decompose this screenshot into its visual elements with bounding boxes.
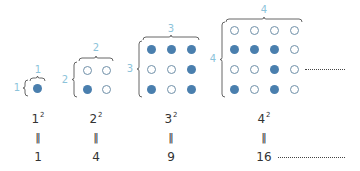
open-dot: [167, 85, 176, 94]
filled-dot: [167, 45, 176, 54]
filled-dot: [33, 84, 42, 93]
top-count-label: 3: [168, 24, 174, 34]
filled-dot: [250, 45, 259, 54]
square-expression: 12: [31, 112, 44, 125]
open-dot: [102, 66, 111, 75]
equals-sign: ‖: [168, 132, 174, 143]
open-dot: [230, 26, 239, 35]
equals-sign: ‖: [261, 132, 267, 143]
filled-dot: [187, 45, 196, 54]
filled-dot: [147, 85, 156, 94]
open-dot: [167, 65, 176, 74]
side-count-label: 2: [62, 75, 68, 85]
filled-dot: [270, 45, 279, 54]
filled-dot: [187, 85, 196, 94]
square-expression: 42: [257, 112, 270, 125]
side-count-label: 4: [210, 54, 216, 64]
open-dot: [290, 65, 299, 74]
filled-dot: [147, 45, 156, 54]
square-value: 1: [34, 151, 42, 163]
square-expression: 22: [89, 112, 102, 125]
filled-dot: [230, 45, 239, 54]
square-value: 4: [92, 151, 100, 163]
open-dot: [250, 65, 259, 74]
side-count-label: 3: [127, 64, 133, 74]
filled-dot: [270, 65, 279, 74]
top-count-label: 1: [35, 65, 41, 75]
filled-dot: [187, 65, 196, 74]
square-value: 16: [256, 151, 271, 163]
open-dot: [290, 85, 299, 94]
ellipsis-sequence: [278, 157, 345, 158]
filled-dot: [83, 85, 92, 94]
brace-layer: [0, 0, 360, 171]
open-dot: [290, 45, 299, 54]
side-count-label: 1: [14, 83, 20, 93]
open-dot: [230, 65, 239, 74]
square-value: 9: [167, 151, 175, 163]
open-dot: [250, 26, 259, 35]
square-expression: 32: [164, 112, 177, 125]
top-count-label: 4: [261, 5, 267, 15]
equals-sign: ‖: [93, 132, 99, 143]
open-dot: [290, 26, 299, 35]
top-count-label: 2: [93, 43, 99, 53]
open-dot: [270, 26, 279, 35]
ellipsis-figure: [305, 69, 345, 70]
open-dot: [250, 85, 259, 94]
square-numbers-diagram: 11223344 12‖122‖432‖942‖16: [0, 0, 360, 171]
equals-sign: ‖: [35, 132, 41, 143]
open-dot: [83, 66, 92, 75]
filled-dot: [230, 85, 239, 94]
open-dot: [102, 85, 111, 94]
filled-dot: [270, 85, 279, 94]
open-dot: [147, 65, 156, 74]
